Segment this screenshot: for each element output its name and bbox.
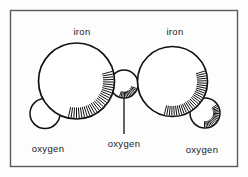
label-iron-left: iron <box>73 26 90 37</box>
atom-iron-left <box>39 43 115 119</box>
molecule-diagram-figure: iron iron oxygen oxygen oxygen <box>0 0 248 177</box>
label-oxygen-center: oxygen <box>108 138 141 149</box>
diagram-canvas: iron iron oxygen oxygen oxygen <box>0 0 248 177</box>
atoms-layer <box>30 43 220 129</box>
label-oxygen-right: oxygen <box>186 144 219 155</box>
label-oxygen-left: oxygen <box>32 143 65 154</box>
atom-sphere-iron-right <box>138 47 208 117</box>
atom-iron-right <box>138 47 208 117</box>
label-iron-right: iron <box>166 26 183 37</box>
